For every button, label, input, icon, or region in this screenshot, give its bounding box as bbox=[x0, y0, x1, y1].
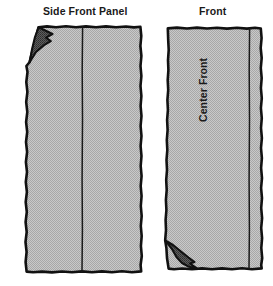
pattern-illustration-svg bbox=[0, 0, 273, 286]
front-panel-shape bbox=[165, 28, 262, 270]
front-panel-title: Front bbox=[199, 6, 226, 17]
side-front-panel-title: Side Front Panel bbox=[43, 6, 127, 17]
side-front-panel-shape bbox=[26, 26, 142, 272]
front-panel-seam-line bbox=[249, 28, 250, 269]
pattern-diagram: Side Front Panel Front Center Front bbox=[0, 0, 273, 286]
front-panel-group bbox=[165, 28, 262, 270]
side-front-panel-group bbox=[26, 26, 142, 272]
center-front-label: Center Front bbox=[198, 58, 209, 122]
side-front-seam-line bbox=[82, 27, 83, 272]
